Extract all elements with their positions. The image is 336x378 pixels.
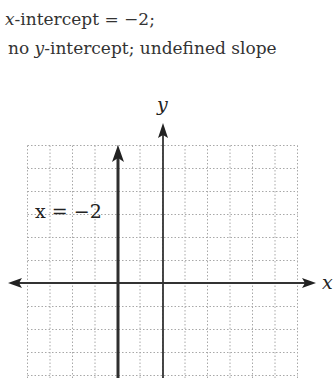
line-x-equals-minus-2: [112, 145, 124, 378]
coordinate-plane: x y x = −2: [0, 0, 336, 378]
y-axis-label: y: [156, 93, 168, 115]
x-axis-label: x: [322, 271, 333, 293]
x-axis: x: [8, 271, 333, 293]
line-equation-label: x = −2: [35, 200, 102, 222]
